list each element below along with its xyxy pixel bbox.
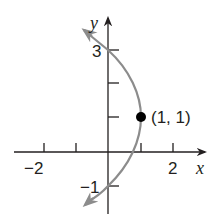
x-axis-label: x	[195, 158, 204, 178]
vertex-point	[136, 112, 146, 122]
tick-label-y-neg1: −1	[80, 178, 99, 197]
point-label: (1, 1)	[151, 108, 191, 127]
y-axis-label: y	[88, 13, 98, 33]
tick-label-x-2: 2	[168, 159, 177, 178]
y-ticks	[108, 50, 119, 186]
tick-label-y-3: 3	[92, 42, 101, 61]
graph-canvas: (1, 1) y x −2 2 3 −1	[0, 0, 215, 221]
curve-arrow-bottom	[85, 198, 93, 205]
tick-label-x-neg2: −2	[24, 159, 43, 178]
